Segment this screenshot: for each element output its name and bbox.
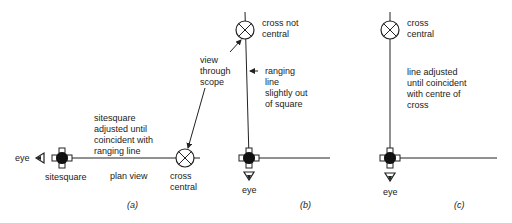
cross-not-central-label: cross not central bbox=[262, 18, 299, 40]
sitesquare-icon-c bbox=[380, 148, 400, 168]
eye-label-a: eye bbox=[15, 153, 30, 164]
eye-label-b: eye bbox=[242, 185, 257, 196]
cross-central-label-a: cross central bbox=[170, 171, 197, 193]
sitesquare-label: sitesquare bbox=[45, 172, 87, 183]
sitesquare-diagram: eye sitesquare plan view cross central s… bbox=[0, 0, 512, 223]
cross-central-label-c: cross central bbox=[407, 18, 434, 40]
sitesquare-icon-b bbox=[239, 148, 259, 168]
cross-icon-c bbox=[381, 21, 399, 39]
eye-label-c: eye bbox=[383, 187, 398, 198]
caption-b: (b) bbox=[300, 200, 311, 210]
sitesquare-adjust-note: sitesquare adjusted until coincident wit… bbox=[94, 113, 153, 157]
ranging-line-note: ranging line slightly out of square bbox=[265, 66, 308, 110]
line-adjusted-note: line adjusted until coincident with cent… bbox=[407, 67, 467, 111]
sitesquare-icon-a bbox=[52, 148, 72, 168]
view-through-scope-note: view through scope bbox=[200, 55, 231, 88]
plan-view-label: plan view bbox=[110, 171, 148, 182]
caption-c: (c) bbox=[454, 200, 465, 210]
cross-icon-b bbox=[236, 21, 254, 39]
scope-arrow-b bbox=[230, 40, 241, 52]
cross-icon-a bbox=[176, 149, 194, 167]
caption-a: (a) bbox=[127, 200, 138, 210]
scope-arrow-a bbox=[188, 88, 205, 148]
